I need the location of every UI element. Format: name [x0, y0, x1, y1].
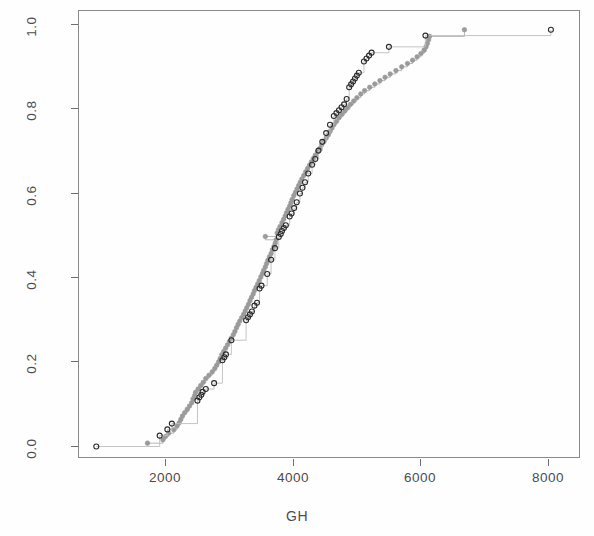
series-black-open-ecdf: [94, 27, 554, 449]
y-axis-label-text: 1.0: [24, 16, 39, 36]
x-axis-label-6000: 6000: [385, 470, 455, 485]
data-point: [383, 75, 388, 80]
x-axis-tick-2000: [165, 459, 166, 466]
y-axis-tick-0.0: [71, 446, 78, 447]
data-point: [410, 58, 415, 63]
x-axis-title: GH: [0, 508, 594, 524]
data-point: [399, 65, 404, 70]
y-axis-label-text: 0.2: [24, 353, 39, 373]
y-axis-label-0.2: 0.2: [0, 354, 62, 368]
plot-frame: [78, 10, 580, 458]
data-point: [388, 72, 393, 77]
series-step-line: [148, 30, 465, 443]
y-axis-label-0.8: 0.8: [0, 101, 62, 115]
x-axis-label-2000: 2000: [130, 470, 200, 485]
y-axis-label-text: 0.6: [24, 185, 39, 205]
data-point: [355, 95, 360, 100]
data-point: [405, 61, 410, 66]
y-axis-tick-0.4: [71, 277, 78, 278]
x-axis-tick-4000: [293, 459, 294, 466]
data-point: [358, 92, 363, 97]
data-point: [362, 88, 367, 93]
data-point: [373, 82, 378, 87]
y-axis-label-text: 0.4: [24, 269, 39, 289]
data-point: [145, 441, 150, 446]
y-axis-label-0.0: 0.0: [0, 439, 62, 453]
y-axis-label-0.6: 0.6: [0, 186, 62, 200]
plot-area: [79, 11, 579, 457]
y-axis-tick-1.0: [71, 24, 78, 25]
series-grey-filled-ecdf: [145, 27, 467, 445]
y-axis-label-1.0: 1.0: [0, 17, 62, 31]
data-series-canvas: [79, 11, 581, 459]
y-axis-tick-0.8: [71, 108, 78, 109]
y-axis-label-text: 0.0: [24, 438, 39, 458]
data-point: [394, 68, 399, 73]
y-axis-label-text: 0.8: [24, 100, 39, 120]
y-axis-tick-0.6: [71, 193, 78, 194]
x-axis-tick-8000: [548, 459, 549, 466]
data-point: [263, 234, 268, 239]
data-point: [462, 27, 467, 32]
data-point: [415, 55, 420, 60]
ecdf-figure: 1.0 0.8 0.6 0.4 0.2 0.0 2000 4000 6000 8…: [0, 0, 594, 536]
x-axis-label-8000: 8000: [513, 470, 583, 485]
x-axis-tick-6000: [420, 459, 421, 466]
y-axis-label-0.4: 0.4: [0, 270, 62, 284]
series-step-line: [96, 30, 551, 447]
x-axis-label-4000: 4000: [258, 470, 328, 485]
data-point: [367, 85, 372, 90]
data-point: [378, 78, 383, 83]
y-axis-tick-0.2: [71, 361, 78, 362]
